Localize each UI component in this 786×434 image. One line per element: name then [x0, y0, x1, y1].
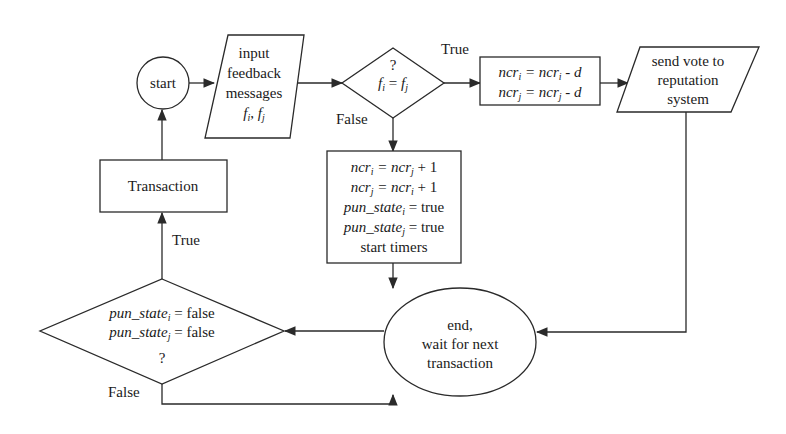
punish-cond-2: pun_statej = false [108, 324, 215, 342]
end-line-3: transaction [427, 355, 493, 371]
edge-label-true-top: True [441, 41, 469, 57]
input-line-2: feedback [227, 65, 282, 81]
mismatch-line-3: pun_statei = true [343, 199, 445, 217]
punish-cond-1: pun_statei = false [108, 305, 215, 323]
node-mismatch-update: ncri = ncrj + 1 ncrj = ncri + 1 pun_stat… [327, 151, 461, 263]
mismatch-line-4: pun_statej = true [343, 219, 445, 237]
edge-label-true-left: True [172, 232, 200, 248]
node-decision-punish-state: pun_statei = false pun_statej = false ? [40, 279, 284, 384]
edge-send-to-end [537, 112, 686, 332]
edge-punish-false [162, 384, 393, 404]
decision-question-mark: ? [390, 57, 397, 73]
penalize-line-2: ncrj = ncrj - d [498, 84, 582, 102]
node-send-vote: send vote to reputation system [617, 47, 759, 112]
end-line-1: end, [447, 317, 472, 333]
punish-question-mark: ? [159, 350, 166, 366]
node-penalize-votes: ncri = ncri - d ncrj = ncrj - d [480, 57, 600, 105]
send-vote-line-3: system [667, 91, 709, 107]
end-line-2: wait for next [422, 336, 499, 352]
input-vars: fi, fj [243, 105, 265, 123]
send-vote-line-2: reputation [658, 72, 719, 88]
mismatch-line-5: start timers [360, 239, 427, 255]
penalize-line-1: ncri = ncri - d [498, 64, 582, 82]
node-transaction: Transaction [100, 160, 227, 212]
node-input-feedback: input feedback messages fi, fj [205, 35, 304, 138]
mismatch-line-1: ncri = ncrj + 1 [351, 159, 438, 177]
transaction-label: Transaction [128, 178, 199, 194]
edge-label-false-top: False [336, 111, 368, 127]
mismatch-line-2: ncrj = ncri + 1 [351, 179, 438, 197]
input-line-1: input [239, 45, 271, 61]
node-end: end, wait for next transaction [384, 288, 536, 396]
edge-label-false-bottom: False [108, 384, 140, 400]
flowchart-diagram: start input feedback messages fi, fj ? f… [0, 0, 786, 434]
node-decision-feedback-equal: ? fi = fj [342, 48, 444, 118]
node-start: start [137, 57, 189, 109]
send-vote-line-1: send vote to [652, 53, 725, 69]
input-line-3: messages [226, 85, 283, 101]
start-label: start [150, 75, 177, 91]
